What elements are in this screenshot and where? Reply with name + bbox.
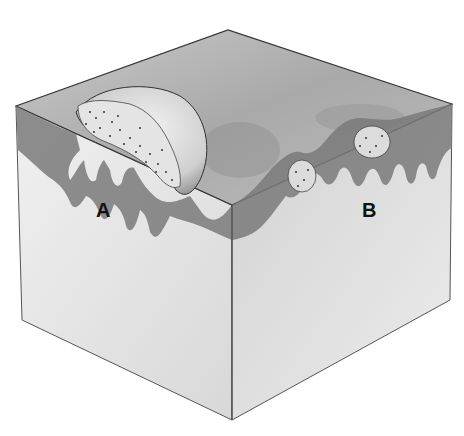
- block-illustration: [0, 0, 464, 436]
- label-b: B: [362, 200, 376, 220]
- label-a: A: [96, 200, 110, 220]
- skin-block-diagram: A B: [0, 0, 464, 436]
